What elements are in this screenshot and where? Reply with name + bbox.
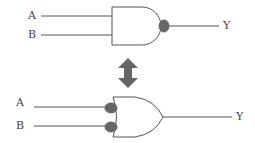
- nand-label-b: B: [28, 29, 36, 40]
- nand-label-y: Y: [223, 20, 230, 31]
- or-gate-inverted-inputs: [34, 97, 232, 137]
- or-label-b: B: [16, 120, 24, 131]
- nand-body: [112, 7, 161, 45]
- or-body: [113, 97, 163, 137]
- nand-gate: [41, 7, 219, 45]
- nand-label-a: A: [28, 10, 36, 21]
- logic-diagram: [0, 0, 255, 143]
- or-input-b-bubble: [105, 122, 117, 132]
- or-input-a-bubble: [105, 103, 117, 113]
- nand-output-bubble: [159, 20, 169, 32]
- double-arrow-icon: [118, 58, 138, 88]
- or-label-a: A: [16, 97, 24, 108]
- or-label-y: Y: [236, 111, 243, 122]
